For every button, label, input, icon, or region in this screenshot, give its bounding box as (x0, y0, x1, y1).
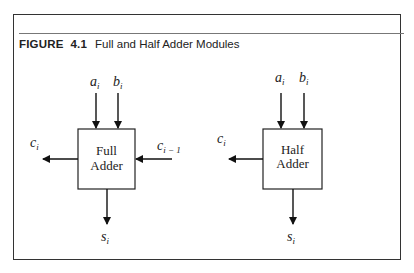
half-adder-b-label: bi (299, 70, 309, 87)
full-adder-s-label: si (101, 229, 109, 246)
half-adder-module: Half Adder ai bi ci si (217, 70, 322, 246)
half-adder-label-1: Half (281, 142, 305, 157)
full-adder-b-label: bi (113, 74, 123, 91)
full-adder-cout-label: ci (30, 135, 39, 152)
full-adder-label-2: Adder (90, 158, 123, 173)
full-adder-label-1: Full (96, 143, 117, 158)
half-adder-s-label: si (287, 229, 295, 246)
full-adder-cin-label: ci − 1 (157, 138, 181, 155)
half-adder-label-2: Adder (276, 156, 309, 171)
half-adder-a-label: ai (275, 70, 285, 87)
full-adder-module: Full Adder ai bi ci − 1 ci si (30, 74, 181, 246)
half-adder-cout-label: ci (217, 131, 226, 148)
adder-diagram: Full Adder ai bi ci − 1 ci si Half Adder… (0, 0, 414, 273)
full-adder-a-label: ai (90, 74, 100, 91)
